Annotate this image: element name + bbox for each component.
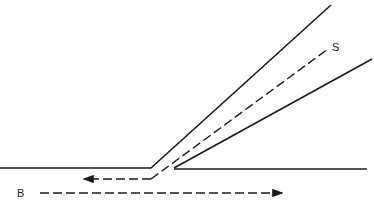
label-b: B (17, 187, 24, 199)
label-s: S (332, 41, 339, 53)
s-path-dashed (151, 49, 328, 179)
upper-branch-line (151, 5, 331, 168)
diagram-canvas: S B (0, 0, 374, 212)
lower-branch-line (174, 59, 372, 168)
